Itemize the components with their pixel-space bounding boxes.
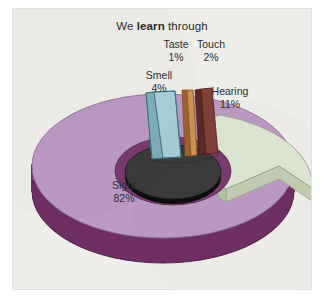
slice-label-smell-name: Smell: [146, 69, 172, 81]
slice-label-smell: Smell 4%: [137, 69, 181, 94]
chart-panel: We learn through: [12, 8, 312, 290]
slice-label-hearing-name: Hearing: [212, 85, 249, 97]
slice-label-touch-name: Touch: [197, 38, 225, 50]
slice-label-smell-value: 4%: [137, 82, 181, 95]
smell-slice: [146, 91, 181, 159]
slice-label-sight: Sight 82%: [98, 179, 150, 204]
slice-label-sight-name: Sight: [112, 179, 136, 191]
screenshot-root: We learn through: [0, 0, 326, 304]
slice-label-hearing: Hearing 11%: [199, 85, 261, 110]
slice-label-sight-value: 82%: [98, 192, 150, 205]
slice-label-hearing-value: 11%: [199, 98, 261, 111]
slice-label-touch: Touch 2%: [185, 38, 237, 63]
slice-label-touch-value: 2%: [185, 51, 237, 64]
